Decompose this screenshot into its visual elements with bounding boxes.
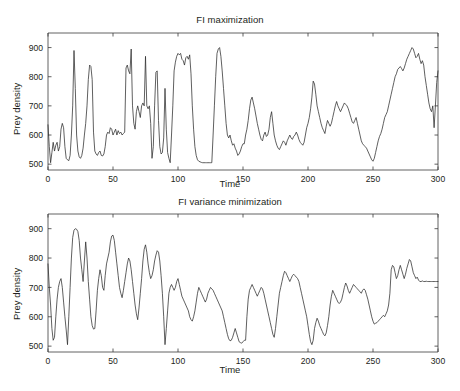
plot-canvas-bottom: 050100150200250300500600700800900: [0, 195, 460, 391]
plot-canvas-top: 050100150200250300500600700800900: [0, 0, 460, 196]
svg-text:700: 700: [29, 101, 44, 111]
series-line: [48, 229, 438, 345]
x-axis-label-top: Time: [0, 178, 460, 189]
chart-panel-bottom: 050100150200250300500600700800900: [0, 195, 460, 391]
svg-text:800: 800: [29, 253, 44, 263]
svg-text:500: 500: [29, 159, 44, 169]
svg-text:900: 900: [29, 224, 44, 234]
x-axis-label-bottom: Time: [0, 364, 460, 375]
y-axis-label-top: Prey density: [11, 83, 22, 135]
figure-container: 050100150200250300500600700800900 FI max…: [0, 0, 460, 391]
series-line: [48, 48, 438, 163]
chart-title-top: FI maximization: [0, 14, 460, 25]
svg-text:900: 900: [29, 43, 44, 53]
svg-text:700: 700: [29, 283, 44, 293]
svg-text:500: 500: [29, 341, 44, 351]
svg-text:600: 600: [29, 130, 44, 140]
chart-title-bottom: FI variance minimization: [0, 196, 460, 207]
svg-text:800: 800: [29, 72, 44, 82]
svg-text:600: 600: [29, 312, 44, 322]
y-axis-label-bottom: Prey density: [11, 268, 22, 320]
chart-panel-top: 050100150200250300500600700800900: [0, 0, 460, 196]
